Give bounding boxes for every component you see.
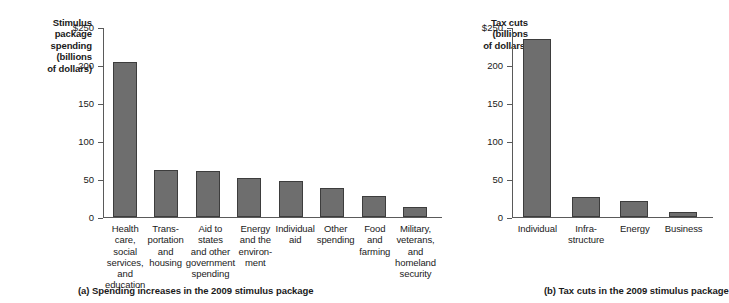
bar-slot — [229, 28, 271, 217]
y-axis-tick-label: 0 — [89, 213, 94, 223]
category-label: Infra- structure — [562, 223, 611, 246]
bar[interactable] — [669, 212, 697, 217]
plot-area-tax-cuts: 050100150200$250 — [512, 28, 707, 218]
category-label: Military, veterans, and homeland securit… — [394, 223, 437, 291]
y-axis-tick-label: 100 — [78, 137, 94, 147]
y-axis-tick — [507, 104, 512, 105]
bar-slot — [312, 28, 354, 217]
bar[interactable] — [572, 197, 600, 217]
bar-slot — [270, 28, 312, 217]
y-axis-tick-label: 150 — [78, 99, 94, 109]
bar[interactable] — [237, 178, 261, 217]
bar[interactable] — [113, 62, 137, 217]
y-axis-tick — [98, 28, 103, 29]
bar[interactable] — [320, 188, 344, 217]
panel-a-caption: (a) Spending increases in the 2009 stimu… — [78, 285, 314, 296]
x-axis-line — [103, 217, 442, 218]
bar[interactable] — [279, 181, 303, 217]
bar[interactable] — [403, 207, 427, 217]
category-label: Energy and the environ- ment — [236, 223, 275, 291]
bar-slot — [146, 28, 188, 217]
bar-slot — [187, 28, 229, 217]
bar[interactable] — [154, 170, 178, 217]
y-axis-tick-label: 50 — [492, 175, 503, 185]
category-label: Trans- portation and housing — [146, 223, 185, 291]
category-label: Other spending — [316, 223, 356, 291]
y-axis-tick — [98, 142, 103, 143]
y-axis-tick — [507, 180, 512, 181]
y-axis-tick — [507, 218, 512, 219]
bar[interactable] — [362, 196, 386, 217]
y-axis-tick-label: 200 — [78, 61, 94, 71]
tax-cuts-chart-panel: Tax cuts (billions of dollars) 050100150… — [445, 0, 721, 303]
y-axis-tick-label: $250 — [482, 23, 503, 33]
y-axis-tick — [507, 66, 512, 67]
y-axis-tick — [507, 142, 512, 143]
bar-slot — [659, 28, 708, 217]
y-axis-tick — [98, 180, 103, 181]
spending-chart-panel: Stimulus package spending (billions of d… — [0, 0, 445, 303]
bar-slot — [513, 28, 562, 217]
y-axis-tick-label: 50 — [83, 175, 94, 185]
category-label: Business — [659, 223, 708, 246]
category-label: Food and farming — [356, 223, 395, 291]
y-axis-tick-label: 150 — [487, 99, 503, 109]
bar[interactable] — [620, 201, 648, 217]
y-axis-tick-label: 0 — [498, 213, 503, 223]
y-axis-tick — [98, 104, 103, 105]
bar-slot — [104, 28, 146, 217]
y-axis-tick — [98, 66, 103, 67]
y-axis-tick — [98, 218, 103, 219]
x-axis-category-labels-tax-cuts: IndividualInfra- structureEnergyBusiness — [513, 223, 708, 246]
y-axis-tick-label: $250 — [73, 23, 94, 33]
x-axis-category-labels-spending: Health care, social services, and educat… — [104, 223, 437, 291]
bar-slot — [610, 28, 659, 217]
bar-slot — [353, 28, 395, 217]
bar-series-spending — [104, 28, 436, 217]
x-axis-line — [512, 217, 713, 218]
bar[interactable] — [523, 39, 551, 217]
category-label: Energy — [611, 223, 660, 246]
y-axis-tick-label: 100 — [487, 137, 503, 147]
plot-area-spending: 050100150200$250 — [103, 28, 436, 218]
bar-slot — [562, 28, 611, 217]
category-label: Individual aid — [275, 223, 316, 291]
y-axis-tick — [507, 28, 512, 29]
bar[interactable] — [196, 171, 220, 217]
category-label: Health care, social services, and educat… — [104, 223, 146, 291]
panel-b-caption: (b) Tax cuts in the 2009 stimulus packag… — [544, 285, 729, 296]
y-axis-tick-label: 200 — [487, 61, 503, 71]
category-label: Individual — [513, 223, 562, 246]
bar-series-tax-cuts — [513, 28, 707, 217]
bar-slot — [395, 28, 437, 217]
category-label: Aid to states and other government spend… — [185, 223, 236, 291]
